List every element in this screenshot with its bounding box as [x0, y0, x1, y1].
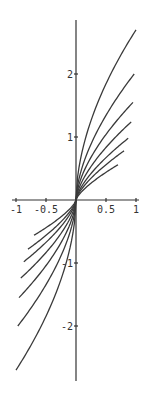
x-tick-label: -0.5: [34, 204, 58, 215]
plot-area: -1-0.50.51 21-1-2: [0, 0, 150, 398]
y-tick-label: 1: [67, 132, 73, 143]
x-tick-label: 1: [133, 204, 139, 215]
x-tick-label: 0.5: [97, 204, 115, 215]
y-tick-label: 2: [67, 69, 73, 80]
y-tick-label: -2: [61, 321, 73, 332]
x-tick-label: -1: [10, 204, 22, 215]
